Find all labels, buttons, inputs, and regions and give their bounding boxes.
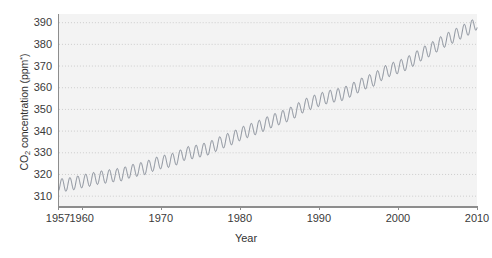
x-axis-tick-1957: 1957 (46, 211, 70, 225)
x-axis-tick-1980: 1980 (228, 211, 252, 225)
y-axis-tick-310: 310 (22, 191, 52, 202)
y-axis-tick-330: 330 (22, 147, 52, 158)
x-axis-line (58, 206, 478, 208)
y-axis-tick-350: 350 (22, 104, 52, 115)
y-axis-tick-370: 370 (22, 61, 52, 72)
x-axis-label: Year (0, 232, 492, 244)
x-axis-tickmark (319, 207, 320, 210)
data-series-line (59, 14, 477, 207)
x-axis-tickmark (82, 207, 83, 210)
chart-figure: CO2 concentration (ppm*) 310320330340350… (0, 0, 492, 258)
x-axis-tickmark (161, 207, 162, 210)
plot-area (58, 14, 477, 207)
x-axis-tick-1960: 1960 (69, 211, 93, 225)
y-axis-tick-360: 360 (22, 82, 52, 93)
x-axis-tickmark (240, 207, 241, 210)
x-axis-tick-2000: 2000 (386, 211, 410, 225)
y-axis-tick-340: 340 (22, 126, 52, 137)
y-axis-tick-320: 320 (22, 169, 52, 180)
x-axis-tick-2010: 2010 (465, 211, 489, 225)
x-axis-tickmark (58, 207, 59, 210)
x-axis-tick-1990: 1990 (307, 211, 331, 225)
y-axis-tick-390: 390 (22, 17, 52, 28)
x-axis-tick-1970: 1970 (149, 211, 173, 225)
x-axis-tickmark (398, 207, 399, 210)
y-axis-tick-380: 380 (22, 39, 52, 50)
x-axis-tick-labels: 1957196019701980199020002010 (0, 211, 492, 227)
x-axis-tickmark (477, 207, 478, 210)
